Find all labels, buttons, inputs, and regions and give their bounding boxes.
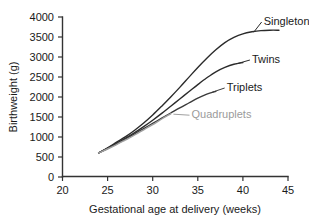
- y-tick-label-3000: 3000: [30, 51, 54, 63]
- y-tick-label-2000: 2000: [30, 91, 54, 103]
- y-axis-tick-labels: 4000 3500 3000 2500 2000 1500 1000 500 0: [30, 11, 54, 183]
- series-label-triplets: Triplets: [227, 81, 263, 93]
- y-tick-label-3500: 3500: [30, 31, 54, 43]
- series-label-singletons: Singletons: [264, 15, 309, 27]
- y-tick-label-2500: 2500: [30, 71, 54, 83]
- leader-line-triplets: [212, 88, 224, 92]
- y-tick-label-4000: 4000: [30, 11, 54, 23]
- birthweight-gestational-age-chart: 4000 3500 3000 2500 2000 1500 1000 500 0…: [0, 0, 309, 224]
- y-axis-title: Birthweight (g): [7, 62, 19, 133]
- series-labels: Singletons Twins Triplets Quadruplets: [191, 15, 309, 120]
- series-label-quadruplets: Quadruplets: [191, 108, 251, 120]
- axes-group: [63, 17, 289, 177]
- x-axis-tick-labels: 20 25 30 35 40 45: [56, 184, 294, 196]
- y-tick-label-1500: 1500: [30, 111, 54, 123]
- y-tick-label-1000: 1000: [30, 131, 54, 143]
- leader-line-quadruplets: [173, 114, 189, 115]
- x-tick-label-20: 20: [56, 184, 68, 196]
- x-tick-label-25: 25: [101, 184, 113, 196]
- series-leader-lines: [173, 22, 261, 115]
- leader-line-twins: [237, 60, 250, 64]
- x-tick-label-45: 45: [282, 184, 294, 196]
- x-tick-label-40: 40: [237, 184, 249, 196]
- x-tick-label-35: 35: [192, 184, 204, 196]
- x-tick-label-30: 30: [147, 184, 159, 196]
- x-axis-title: Gestational age at delivery (weeks): [89, 203, 261, 215]
- y-tick-label-0: 0: [48, 171, 54, 183]
- y-tick-label-500: 500: [36, 151, 54, 163]
- chart-svg: 4000 3500 3000 2500 2000 1500 1000 500 0…: [0, 0, 309, 224]
- series-label-twins: Twins: [252, 53, 281, 65]
